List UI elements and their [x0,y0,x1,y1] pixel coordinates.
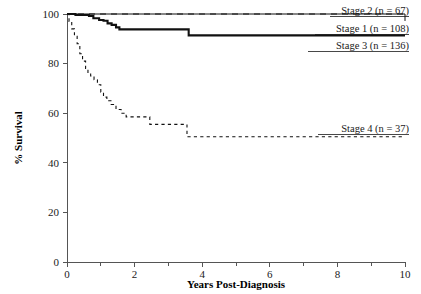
series-label-stage-4: Stage 4 (n = 37) [341,123,409,135]
y-tick-label: 40 [48,157,60,169]
y-tick-label: 80 [48,57,60,69]
series-label-stage-2: Stage 2 (n = 67) [341,5,409,17]
plot-area: 020406080100 0246810 Stage 1 (n = 108)St… [0,0,421,294]
x-tick-label: 2 [132,268,138,280]
series-label-stage-1: Stage 1 (n = 108) [336,23,409,35]
curve-annotations: Stage 1 (n = 108)Stage 2 (n = 67)Stage 3… [308,5,409,135]
y-tick-label: 20 [48,206,60,218]
y-axis-ticks: 020406080100 [43,8,68,268]
x-tick-label: 0 [64,268,70,280]
y-axis-title: % Survival [12,111,24,164]
x-axis-title: Years Post-Diagnosis [187,278,286,290]
y-tick-label: 60 [48,107,60,119]
y-tick-label: 100 [43,8,60,20]
survival-chart: 020406080100 0246810 Stage 1 (n = 108)St… [0,0,421,294]
series-label-stage-3: Stage 3 (n = 136) [336,40,409,52]
x-tick-label: 10 [400,268,412,280]
x-tick-label: 8 [335,268,341,280]
y-tick-label: 0 [54,256,60,268]
